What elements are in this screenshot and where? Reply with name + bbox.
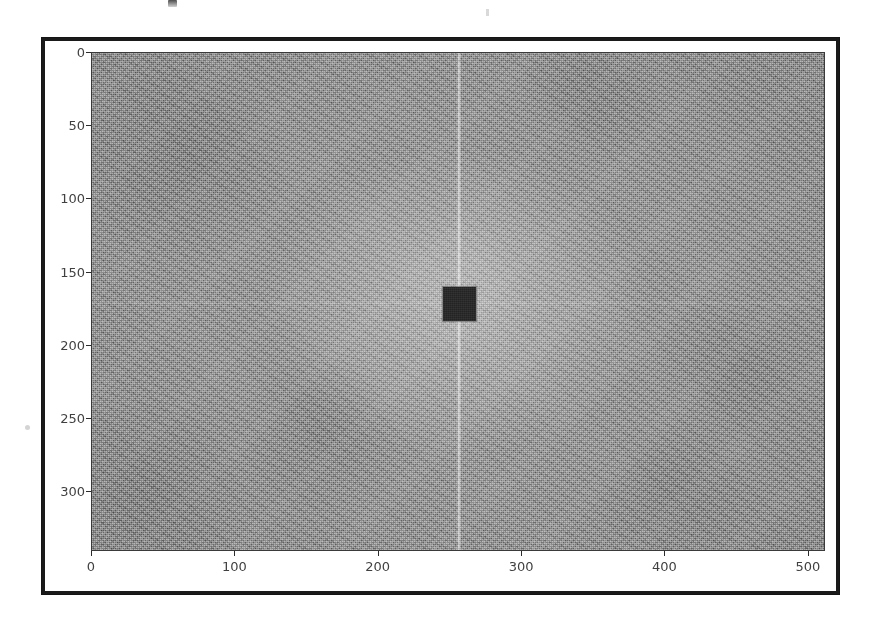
- y-tick-label: 250: [60, 410, 85, 425]
- y-tick-label: 0: [77, 45, 85, 60]
- scan-artifact-left-speck: [25, 425, 30, 430]
- figure-frame: 050100150200250300 0100200300400500: [41, 37, 840, 595]
- x-tick-label: 0: [87, 559, 95, 574]
- x-tick-mark: [664, 551, 665, 556]
- scan-artifact-top-text-fragment: [168, 0, 177, 7]
- x-tick-label: 100: [222, 559, 247, 574]
- spectrum-image-axes: [91, 52, 825, 551]
- y-tick-label: 150: [60, 264, 85, 279]
- x-tick-mark: [808, 551, 809, 556]
- x-tick-label: 400: [652, 559, 677, 574]
- dark-center-square: [443, 287, 476, 321]
- dark-square-texture: [443, 287, 476, 321]
- y-axis-tick-labels: 050100150200250300: [45, 52, 85, 551]
- scan-artifact-top-mark: [486, 9, 489, 16]
- x-tick-label: 200: [365, 559, 390, 574]
- x-tick-label: 300: [509, 559, 534, 574]
- x-tick-label: 500: [795, 559, 820, 574]
- x-tick-mark: [378, 551, 379, 556]
- x-tick-mark: [234, 551, 235, 556]
- x-tick-mark: [521, 551, 522, 556]
- x-axis-tick-labels: 0100200300400500: [91, 557, 825, 579]
- y-tick-label: 100: [60, 191, 85, 206]
- y-tick-label: 200: [60, 337, 85, 352]
- y-tick-label: 300: [60, 484, 85, 499]
- x-tick-mark: [91, 551, 92, 556]
- y-tick-label: 50: [68, 118, 85, 133]
